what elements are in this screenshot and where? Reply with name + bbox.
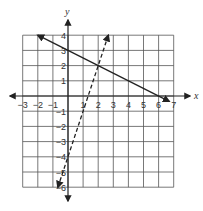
axes (10, 20, 190, 201)
y-tick-label: 2 (61, 61, 66, 71)
x-tick-label: 5 (141, 100, 146, 110)
y-axis-label: y (64, 6, 70, 17)
tick-labels: −3−2−112345674321−1−2−3−4−5−6 (18, 31, 177, 193)
y-tick-label: −6 (56, 183, 66, 193)
x-tick-label: −3 (18, 100, 28, 110)
y-tick-label: −5 (56, 168, 66, 178)
y-tick-label: −1 (56, 107, 66, 117)
y-tick-label: −3 (56, 137, 66, 147)
x-tick-label: 3 (111, 100, 116, 110)
x-tick-label: −2 (33, 100, 43, 110)
coordinate-plane: −3−2−112345674321−1−2−3−4−5−6 x y (0, 0, 203, 211)
x-tick-label: 4 (126, 100, 131, 110)
x-axis-label: x (193, 90, 199, 101)
x-tick-label: 7 (171, 100, 176, 110)
y-tick-label: −4 (56, 152, 66, 162)
solid-line (38, 35, 169, 101)
y-tick-label: 4 (61, 31, 66, 41)
y-tick-label: 1 (61, 76, 66, 86)
x-tick-label: 6 (156, 100, 161, 110)
y-tick-label: −2 (56, 122, 66, 132)
grid (23, 35, 174, 187)
x-tick-label: 2 (96, 100, 101, 110)
